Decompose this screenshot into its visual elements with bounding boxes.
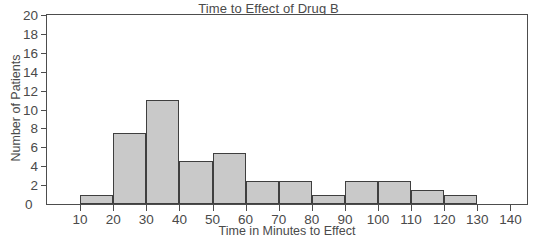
y-tick-label: 12 — [23, 83, 38, 98]
y-tick-mark — [41, 72, 47, 73]
x-tick-mark — [477, 204, 478, 211]
histogram-bar — [113, 133, 146, 204]
x-tick-mark — [279, 204, 280, 211]
y-tick-label: 20 — [23, 8, 38, 23]
histogram-bar — [179, 161, 212, 204]
y-tick-label: 16 — [23, 45, 38, 60]
x-tick-mark — [213, 204, 214, 211]
y-tick-label: 6 — [30, 140, 38, 155]
y-tick-label: 2 — [30, 178, 38, 193]
x-tick-mark — [444, 204, 445, 211]
histogram-bar — [378, 181, 411, 204]
histogram-bar — [444, 195, 477, 204]
y-tick-label: 18 — [23, 26, 38, 41]
histogram-bar — [146, 100, 179, 204]
y-axis-zero-label: 0 — [25, 197, 33, 212]
x-tick-mark — [345, 204, 346, 211]
x-tick-mark — [246, 204, 247, 211]
y-tick-label: 14 — [23, 64, 38, 79]
histogram-bar — [80, 195, 113, 204]
x-tick-mark — [312, 204, 313, 211]
y-tick-label: 4 — [30, 159, 38, 174]
y-tick-mark — [41, 91, 47, 92]
y-tick-label: 8 — [30, 121, 38, 136]
y-tick-mark — [41, 110, 47, 111]
bars-layer — [47, 15, 527, 204]
histogram-bar — [279, 181, 312, 204]
histogram-bar — [312, 195, 345, 204]
histogram-bar — [345, 181, 378, 204]
histogram-bar — [213, 153, 246, 204]
x-tick-mark — [80, 204, 81, 211]
x-axis-label: Time in Minutes to Effect — [46, 224, 528, 238]
y-tick-mark — [41, 53, 47, 54]
histogram-bar — [246, 181, 279, 204]
y-tick-label: 10 — [23, 102, 38, 117]
x-tick-mark — [113, 204, 114, 211]
x-tick-mark — [179, 204, 180, 211]
y-tick-mark — [41, 34, 47, 35]
plot-area: 2468101214161820102030405060708090100110… — [46, 14, 528, 205]
histogram-bar — [411, 190, 444, 204]
y-axis-label: Number of Patients — [9, 33, 23, 183]
histogram-figure: Time to Effect of Drug B Number of Patie… — [0, 0, 537, 243]
y-tick-mark — [41, 166, 47, 167]
x-tick-mark — [378, 204, 379, 211]
y-tick-mark — [41, 147, 47, 148]
y-tick-mark — [41, 185, 47, 186]
y-tick-mark — [41, 15, 47, 16]
y-tick-mark — [41, 128, 47, 129]
x-tick-mark — [510, 204, 511, 211]
x-tick-mark — [411, 204, 412, 211]
x-tick-mark — [146, 204, 147, 211]
